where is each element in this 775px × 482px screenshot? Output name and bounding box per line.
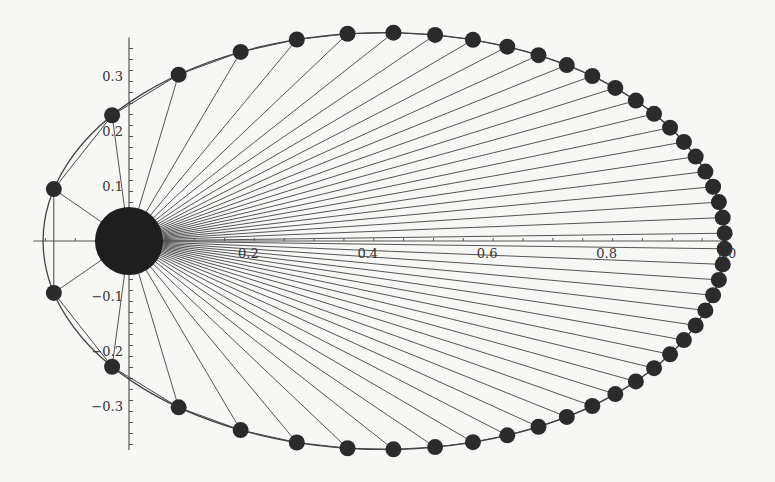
radius-line: [129, 241, 654, 368]
planet-dot: [340, 440, 356, 456]
radius-line: [129, 142, 684, 241]
planet-dot: [233, 44, 249, 60]
x-tick-label: 0.4: [357, 246, 378, 261]
planet-dot: [711, 272, 727, 288]
y-tick-label: −0.1: [91, 289, 123, 304]
planet-dot: [717, 225, 733, 241]
planet-dot: [715, 210, 731, 226]
radius-line: [129, 157, 696, 241]
radius-line: [129, 241, 348, 448]
y-tick-label: 0.2: [102, 124, 123, 139]
radius-line: [129, 101, 636, 241]
planet-dot: [171, 399, 187, 415]
planet-dot: [628, 373, 644, 389]
planet-dot: [584, 398, 600, 414]
planet-dot: [46, 285, 62, 301]
planet-dot: [340, 26, 356, 42]
x-tick-label: 1.0: [716, 246, 737, 261]
radius-line: [129, 34, 348, 241]
radius-line: [129, 55, 538, 241]
x-tick-label: 0.8: [596, 246, 617, 261]
radius-line: [129, 241, 393, 449]
planet-dot: [46, 181, 62, 197]
planet-dot: [676, 332, 692, 348]
y-tick-label: −0.2: [91, 344, 123, 359]
planet-dot: [688, 317, 704, 333]
planet-dot: [697, 164, 713, 180]
radius-line: [129, 33, 393, 241]
planet-dot: [104, 359, 120, 375]
planet-dot: [607, 80, 623, 96]
planet-dot: [607, 386, 623, 402]
planet-dot: [705, 179, 721, 195]
planet-dot: [646, 106, 662, 122]
radius-line: [129, 241, 636, 381]
planet-dot: [385, 25, 401, 41]
y-tick-label: 0.3: [102, 69, 123, 84]
planet-dot: [711, 194, 727, 210]
planet-dot: [233, 422, 249, 438]
planet-dot: [530, 47, 546, 63]
x-tick-label: 0.6: [477, 246, 498, 261]
planet-dot: [705, 287, 721, 303]
planet-dot: [697, 302, 713, 318]
planet-dot: [499, 39, 515, 55]
planet-dot: [628, 93, 644, 109]
y-tick-label: −0.3: [91, 399, 123, 414]
planet-dot: [530, 419, 546, 435]
planet-dot: [499, 427, 515, 443]
planet-dot: [662, 120, 678, 136]
radius-line: [129, 241, 538, 427]
planet-dot: [465, 32, 481, 48]
planet-dot: [427, 27, 443, 43]
planet-dot: [465, 434, 481, 450]
planet-dot: [559, 409, 575, 425]
planet-dot: [385, 441, 401, 457]
planet-dot: [584, 68, 600, 84]
planet-dot: [427, 439, 443, 455]
planet-dot: [104, 107, 120, 123]
y-tick-label: 0.1: [102, 179, 123, 194]
planet-dot: [646, 360, 662, 376]
planet-dot: [171, 67, 187, 83]
orbit-chart: 0.20.40.60.81.00.30.20.1−0.1−0.2−0.3: [0, 0, 775, 482]
x-tick-label: 0.2: [238, 246, 259, 261]
radius-line: [129, 114, 654, 241]
sun-disk: [95, 207, 163, 275]
planet-dot: [662, 346, 678, 362]
planet-dot: [559, 57, 575, 73]
planet-dot: [289, 31, 305, 47]
planet-dot: [289, 435, 305, 451]
planet-dot: [676, 134, 692, 150]
planet-dot: [688, 149, 704, 165]
